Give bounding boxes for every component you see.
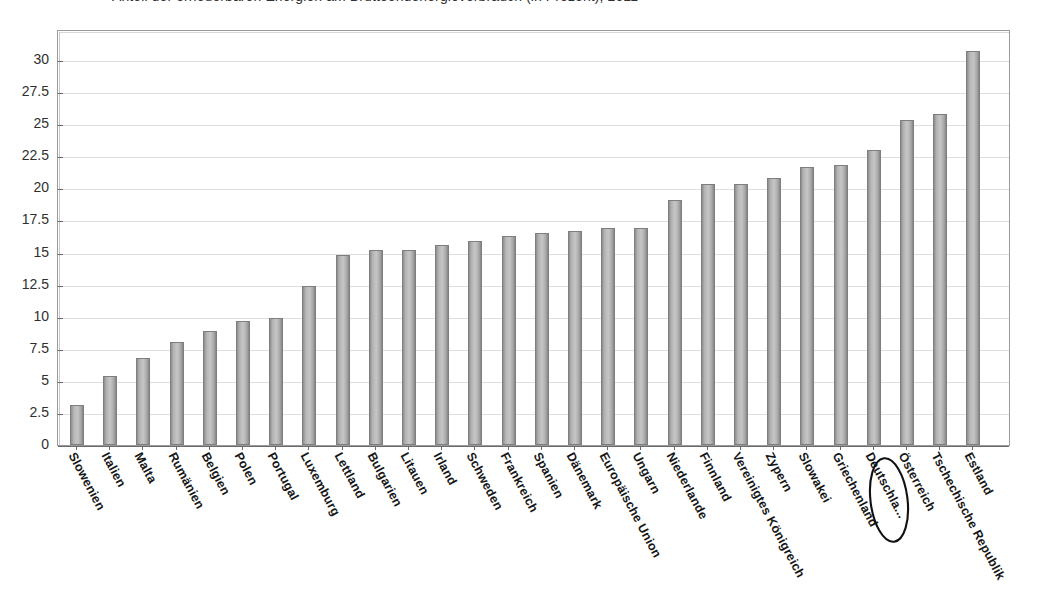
x-axis-label-6: Portugal [265, 450, 302, 503]
gridline-30 [58, 61, 1009, 62]
y-axis-tick-label: 30 [5, 51, 49, 67]
bar-europäischeunion [601, 228, 615, 445]
bar-litauen [402, 250, 416, 445]
bar-niederlande [668, 200, 682, 445]
x-axis-label-14: Spanien [530, 450, 566, 501]
gridline-27.5 [58, 93, 1009, 94]
chart-plot-frame [57, 30, 1010, 446]
x-axis-label-19: Finnland [696, 450, 734, 504]
bar-tschechischerepublik [933, 114, 947, 445]
bar-vereinigteskönigreich [734, 184, 748, 445]
bar-rumänien [170, 342, 184, 445]
page-title: Anteil der erneuerbaren Energien am Brut… [112, 0, 638, 4]
y-tick-mark-7.5 [58, 350, 63, 351]
y-axis-tick-label: 10 [5, 308, 49, 324]
x-axis-label-22: Slowakei [796, 450, 834, 505]
x-axis-label-17: Ungarn [630, 450, 663, 496]
gridline-25 [58, 125, 1009, 126]
y-tick-mark-27.5 [58, 93, 63, 94]
y-tick-mark-25 [58, 125, 63, 126]
x-axis-label-10: Litauen [398, 450, 432, 497]
y-axis-tick-label: 12.5 [5, 276, 49, 292]
x-axis-label-2: Malta [132, 450, 160, 486]
bar-deutschla [867, 150, 881, 445]
y-tick-mark-10 [58, 318, 63, 319]
y-tick-mark-12.5 [58, 286, 63, 287]
y-tick-mark-5 [58, 382, 63, 383]
bar-österreich [900, 120, 914, 445]
y-axis-tick-label: 0 [5, 436, 49, 452]
chart-title-strip: Anteil der erneuerbaren Energien am Brut… [0, 0, 1037, 10]
y-axis-tick-label: 20 [5, 179, 49, 195]
y-axis-tick-label: 27.5 [5, 83, 49, 99]
bar-irland [435, 245, 449, 445]
bar-frankreich [502, 236, 516, 445]
bar-italien [103, 376, 117, 445]
x-axis-label-16: Europäische Union [597, 450, 664, 560]
bar-spanien [535, 233, 549, 445]
bar-finnland [701, 184, 715, 445]
y-tick-mark-17.5 [58, 221, 63, 222]
x-axis-label-1: Italien [99, 450, 129, 490]
y-tick-mark-22.5 [58, 157, 63, 158]
chart-plot-area [58, 31, 1009, 445]
x-axis-label-4: Belgien [198, 450, 232, 498]
bar-slowenien [70, 405, 84, 445]
y-tick-mark-20 [58, 189, 63, 190]
y-tick-mark-15 [58, 254, 63, 255]
y-axis-tick-label: 7.5 [5, 340, 49, 356]
bar-estland [966, 51, 980, 445]
bar-portugal [269, 318, 283, 445]
bar-polen [236, 321, 250, 445]
x-axis-label-8: Lettland [331, 450, 367, 501]
bar-belgien [203, 331, 217, 445]
y-axis-tick-label: 25 [5, 115, 49, 131]
y-tick-mark-30 [58, 61, 63, 62]
y-axis-tick-label: 22.5 [5, 147, 49, 163]
y-tick-mark-0 [58, 446, 63, 447]
y-axis-tick-label: 15 [5, 244, 49, 260]
x-axis-label-11: Irland [431, 450, 460, 488]
bar-lettland [336, 255, 350, 445]
x-axis-label-group: SlowenienItalienMaltaRumänienBelgienPole… [57, 450, 1010, 596]
gridline-0 [58, 446, 1009, 447]
x-axis-label-5: Polen [232, 450, 261, 488]
y-tick-mark-2.5 [58, 414, 63, 415]
y-axis-tick-label: 2.5 [5, 404, 49, 420]
bar-zypern [767, 178, 781, 445]
bar-luxemburg [302, 286, 316, 445]
bar-ungarn [634, 228, 648, 445]
x-axis-label-21: Zypern [763, 450, 795, 494]
bar-griechenland [834, 165, 848, 445]
bar-schweden [468, 241, 482, 445]
bar-dänemark [568, 231, 582, 445]
bar-slowakei [800, 167, 814, 445]
x-axis-label-27: Estland [962, 450, 996, 498]
bar-bulgarien [369, 250, 383, 445]
bar-malta [136, 358, 150, 445]
y-axis-tick-label: 17.5 [5, 211, 49, 227]
y-axis-tick-label: 5 [5, 372, 49, 388]
